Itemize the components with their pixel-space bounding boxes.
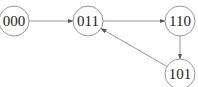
edge-101-to-011 [101, 29, 167, 67]
node-000-label: 000 [3, 13, 26, 29]
node-110-label: 110 [169, 13, 191, 29]
node-000[interactable]: 000 [0, 6, 29, 36]
edges [29, 21, 180, 67]
node-101[interactable]: 101 [165, 59, 195, 87]
state-diagram: 000 011 110 101 [0, 0, 198, 87]
node-101-label: 101 [169, 66, 192, 82]
node-011[interactable]: 011 [73, 6, 103, 36]
node-110[interactable]: 110 [165, 6, 195, 36]
node-011-label: 011 [77, 13, 99, 29]
